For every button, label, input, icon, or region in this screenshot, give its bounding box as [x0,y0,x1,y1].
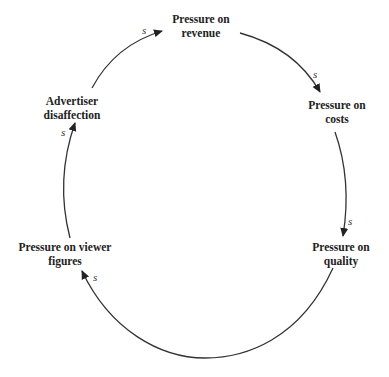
node-label-line1: Advertiser [44,94,101,108]
node-pressure-on-quality: Pressure on quality [312,240,369,268]
node-pressure-on-revenue: Pressure on revenue [172,12,229,40]
causal-loop-diagram: Pressure on revenue Pressure on costs Pr… [0,0,389,377]
node-pressure-on-costs: Pressure on costs [308,98,365,126]
loop-arrows [0,0,389,377]
node-label-line1: Pressure on [312,240,369,254]
polarity-viewer-advertiser: s [61,127,65,138]
node-advertiser-disaffection: Advertiser disaffection [44,94,101,122]
polarity-costs-quality: s [348,216,352,227]
link-revenue-to-costs [240,33,320,92]
node-label-line2: revenue [172,26,229,40]
link-quality-to-viewer [82,268,333,358]
polarity-quality-viewer: s [93,272,97,283]
polarity-advertiser-revenue: s [142,25,146,36]
node-label-line1: Pressure on [172,12,229,26]
node-label-line2: quality [312,254,369,268]
node-label-line2: disaffection [44,108,101,122]
link-viewer-to-advertiser [64,123,75,238]
node-label-line1: Pressure on [308,98,365,112]
node-label-line2: figures [19,254,112,268]
node-pressure-on-viewer-figures: Pressure on viewer figures [19,240,112,268]
link-costs-to-quality [335,132,346,236]
node-label-line1: Pressure on viewer [19,240,112,254]
polarity-revenue-costs: s [313,69,317,80]
link-advertiser-to-revenue [92,31,162,88]
node-label-line2: costs [308,112,365,126]
